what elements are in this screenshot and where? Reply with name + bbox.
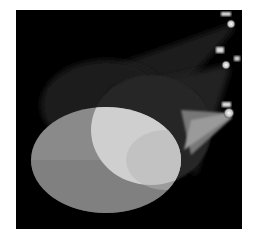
top-spotlight-icon <box>221 12 236 29</box>
spotlight-photo <box>16 10 242 229</box>
spotlight-illustration <box>16 10 242 229</box>
